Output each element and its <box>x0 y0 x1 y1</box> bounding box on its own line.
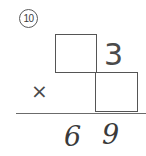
multiplier-digit: 3 <box>104 40 123 70</box>
problem-number-label: 10 <box>23 14 33 24</box>
multiplication-operator-icon: × <box>31 81 48 101</box>
worksheet-problem: 10 3 × 6 9 <box>0 0 146 156</box>
answer-box-tens[interactable] <box>55 34 97 73</box>
problem-number-badge: 10 <box>19 9 38 28</box>
answer-rule-line <box>16 113 146 114</box>
product-digit-ones: 9 <box>102 121 119 148</box>
product-digit-tens: 6 <box>64 123 81 150</box>
answer-box-ones[interactable] <box>95 72 138 112</box>
